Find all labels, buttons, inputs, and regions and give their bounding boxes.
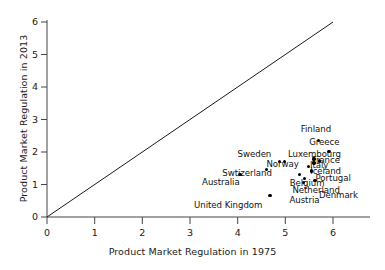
- x-tick-label: 5: [275, 227, 295, 238]
- x-tick-label: 6: [323, 227, 343, 238]
- y-tick-marks: [41, 22, 47, 217]
- y-tick-label: 1: [18, 179, 38, 190]
- x-tick-label: 0: [37, 227, 57, 238]
- data-point-label: Swtizerland: [222, 168, 272, 178]
- x-tick-label: 3: [180, 227, 200, 238]
- y-tick-label: 5: [18, 49, 38, 60]
- data-point-label: Sweden: [238, 149, 272, 159]
- data-point[interactable]: [313, 179, 316, 182]
- data-point-label: Australia: [202, 177, 240, 187]
- chart-page: Product Market Regulation in 1975 Produc…: [0, 0, 385, 270]
- y-tick-label: 0: [18, 211, 38, 222]
- x-tick-label: 2: [132, 227, 152, 238]
- data-point-label: Austria: [289, 195, 319, 205]
- data-point[interactable]: [310, 169, 313, 172]
- x-axis-title: Product Market Regulation in 1975: [0, 246, 385, 257]
- data-point[interactable]: [268, 194, 271, 197]
- x-tick-marks: [47, 217, 333, 224]
- data-point-label: Norway: [266, 159, 298, 169]
- data-point-label: United Kingdom: [194, 200, 262, 210]
- x-tick-label: 4: [228, 227, 248, 238]
- data-point-label: Denmark: [319, 190, 358, 200]
- y-tick-label: 3: [18, 114, 38, 125]
- data-point-label: Finland: [301, 124, 331, 134]
- x-tick-label: 1: [85, 227, 105, 238]
- y-tick-label: 4: [18, 81, 38, 92]
- y-tick-label: 6: [18, 16, 38, 27]
- data-point-label: Greece: [309, 137, 339, 147]
- y-tick-label: 2: [18, 146, 38, 157]
- diagonal-reference-line: [47, 22, 333, 217]
